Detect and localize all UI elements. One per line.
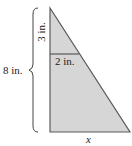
top-segment-label: 3 in. — [35, 22, 47, 42]
total-height-label: 8 in. — [3, 64, 23, 76]
inner-width-label: 2 in. — [55, 55, 75, 67]
similar-triangles-diagram: 3 in. 2 in. 8 in. x — [0, 0, 132, 146]
large-triangle — [50, 8, 130, 132]
base-label: x — [85, 133, 91, 145]
